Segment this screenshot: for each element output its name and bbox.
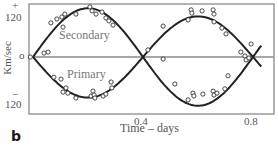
data-point-marker [111,23,115,27]
data-point-marker [107,19,111,23]
data-point-marker [220,26,224,30]
data-point-marker [161,57,165,61]
data-point-marker [109,80,113,84]
data-point-marker [215,91,219,95]
data-point-marker [201,92,205,96]
data-point-marker [146,48,150,52]
data-point-marker [186,98,190,102]
y-tick-plus-sign: + [12,0,18,11]
plot-frame [29,4,274,114]
data-point-marker [74,96,78,100]
y-axis-label-text: Km/sec [1,41,13,75]
data-point-marker [93,96,97,100]
data-point-marker [110,86,114,90]
data-point-marker [249,42,253,46]
data-point-marker [66,91,70,95]
y-tick-zero: o [19,50,25,61]
panel-label: b [11,128,21,144]
data-point-marker [28,55,32,59]
data-point-marker [88,5,92,9]
data-point-marker [200,9,204,13]
data-point-marker [61,90,65,94]
data-point-marker [49,21,53,25]
data-point-marker [186,18,190,22]
data-point-marker [212,20,216,24]
data-point-marker [55,17,59,21]
data-point-marker [59,77,63,81]
data-point-marker [64,86,68,90]
data-point-marker [247,56,251,60]
data-point-marker [52,75,56,79]
primary-curve-label: Primary [67,67,106,82]
data-point-marker [94,12,98,16]
data-point-marker [104,92,108,96]
data-point-marker [212,12,216,16]
data-point-marker [226,74,230,78]
data-point-marker [239,50,243,54]
data-point-marker [42,51,46,55]
x-tick-0.8: 0.8 [244,116,258,127]
data-point-marker [190,11,194,15]
y-tick-120: 120 [5,12,22,23]
data-point-marker [100,10,104,14]
data-point-marker [211,8,215,12]
data-point-marker [161,24,165,28]
x-axis-label: Time – days [120,121,179,136]
data-point-marker [224,32,228,36]
data-point-marker [192,94,196,98]
data-point-marker [173,82,177,86]
data-point-marker [46,50,50,54]
secondary-curve-label: Secondary [59,28,110,43]
data-point-marker [74,12,78,16]
y-axis-label: Km/sec [0,38,14,78]
data-point-marker [223,87,227,91]
y-tick-minus-120: 120 [5,99,22,110]
data-point-marker [90,9,94,13]
data-point-marker [63,12,67,16]
